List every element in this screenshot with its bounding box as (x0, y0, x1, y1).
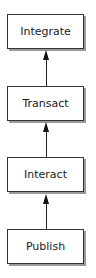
node-interact: Interact (7, 157, 84, 192)
node-integrate: Integrate (7, 14, 84, 49)
node-label: Publish (26, 240, 65, 253)
node-label: Transact (22, 97, 68, 110)
node-label: Integrate (20, 25, 71, 38)
node-publish: Publish (7, 229, 84, 264)
edge-transact-to-integrate (46, 58, 47, 86)
edge-interact-to-transact (46, 130, 47, 157)
node-transact: Transact (7, 86, 84, 121)
edge-publish-to-interact (46, 202, 47, 229)
node-label: Interact (24, 168, 67, 181)
